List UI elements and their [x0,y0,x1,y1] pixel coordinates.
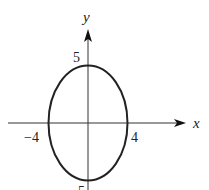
tick-label-y-neg: −5 [70,184,85,190]
tick-label-x-pos: 4 [131,130,138,145]
tick-label-x-neg: −4 [24,130,39,145]
y-axis-label: y [81,9,90,25]
x-axis-label: x [192,115,200,131]
ellipse-graph: y x 5 −4 4 −5 [0,0,209,190]
tick-label-y-pos: 5 [73,50,80,65]
